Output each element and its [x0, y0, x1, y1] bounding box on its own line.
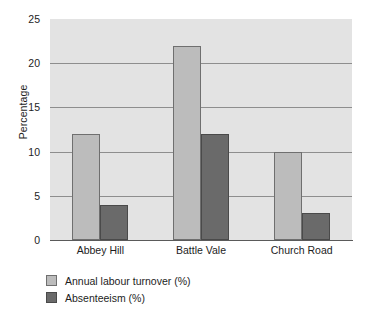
- bar: [173, 46, 201, 240]
- bar: [302, 213, 330, 240]
- bar: [274, 152, 302, 240]
- y-axis-tick-label: 25: [28, 13, 40, 25]
- x-axis-category-label: Church Road: [271, 244, 333, 256]
- legend-item[interactable]: Annual labour turnover (%): [46, 272, 190, 289]
- plot-area: [50, 19, 352, 240]
- bars-layer: [50, 19, 352, 240]
- legend-item-label: Absenteeism (%): [65, 292, 145, 304]
- legend-item-label: Annual labour turnover (%): [65, 275, 190, 287]
- bar: [100, 205, 128, 240]
- legend-swatch-icon: [46, 275, 57, 286]
- legend-swatch-icon: [46, 292, 57, 303]
- y-axis-tick-label: 20: [28, 57, 40, 69]
- y-axis-tick-labels: 0510152025: [0, 0, 46, 318]
- chart-legend: Annual labour turnover (%)Absenteeism (%…: [46, 272, 190, 306]
- bar: [201, 134, 229, 240]
- x-axis-category-label: Battle Vale: [176, 244, 226, 256]
- x-axis-category-labels: Abbey HillBattle ValeChurch Road: [50, 244, 352, 262]
- x-axis-category-label: Abbey Hill: [77, 244, 124, 256]
- legend-item[interactable]: Absenteeism (%): [46, 289, 190, 306]
- y-axis-tick-label: 15: [28, 101, 40, 113]
- y-axis-tick-label: 10: [28, 146, 40, 158]
- x-axis-line: [50, 240, 353, 241]
- y-axis-tick-label: 0: [34, 234, 40, 246]
- y-axis-tick-label: 5: [34, 190, 40, 202]
- bar: [72, 134, 100, 240]
- bar-chart: Percentage 0510152025 Abbey HillBattle V…: [0, 0, 368, 318]
